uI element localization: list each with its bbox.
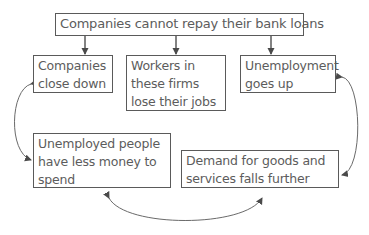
- effect-box-companies-close: Companies close down: [33, 55, 113, 93]
- effect-box-workers-lose-jobs: Workers in these firms lose their jobs: [126, 55, 226, 111]
- cycle-text: Unemployed people have less money to spe…: [38, 136, 160, 187]
- right-cycle-arrow: [342, 77, 358, 175]
- cycle-box-less-money: Unemployed people have less money to spe…: [33, 133, 171, 188]
- cycle-box-demand-falls: Demand for goods and services falls furt…: [181, 150, 339, 188]
- effect-text: Unemployment goes up: [245, 58, 339, 91]
- effect-box-unemployment-up: Unemployment goes up: [240, 55, 336, 93]
- cycle-text: Demand for goods and services falls furt…: [186, 153, 325, 186]
- effect-text: Companies close down: [38, 58, 106, 91]
- cause-text: Companies cannot repay their bank loans: [60, 16, 324, 31]
- left-cycle-arrow: [14, 84, 31, 160]
- bottom-cycle-arrow: [109, 198, 262, 221]
- effect-text: Workers in these firms lose their jobs: [131, 58, 216, 109]
- cause-box: Companies cannot repay their bank loans: [55, 13, 304, 36]
